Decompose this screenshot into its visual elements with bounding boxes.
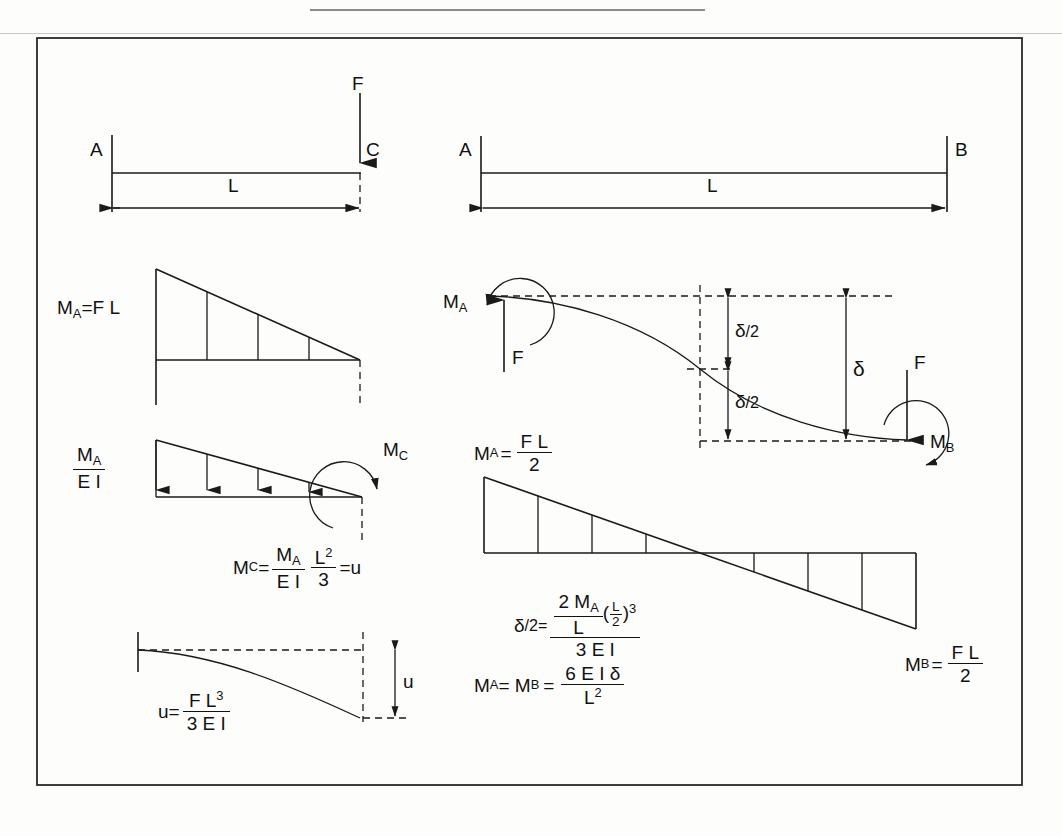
half-delta-outer-num: 2 MA L (L2)3 (550, 592, 640, 638)
ma-ei-num-sub: A (93, 453, 102, 468)
half-delta-paren-den: 2 (610, 615, 622, 629)
mc-frac2-num: L2 (311, 547, 337, 569)
half-delta-paren-pow: 3 (629, 601, 636, 616)
mb-half-lhs: M (905, 655, 921, 674)
half-delta-inner-coef: 2 M (558, 591, 590, 612)
half-delta-outer-den: 3 E I (550, 638, 640, 659)
ma-half-den: 2 (517, 453, 552, 474)
formula-ma-half: MA = F L 2 (474, 432, 555, 474)
formula-mc: MC= MA E I L2 3 =u (233, 545, 361, 591)
label-curvature-ma-ei: MA E I (70, 445, 108, 491)
mb-half-sub: B (921, 658, 930, 671)
label-point-b: B (955, 140, 968, 159)
half-delta-lower-symbol: δ (735, 391, 746, 412)
mc-formula-frac2: L2 3 (311, 547, 337, 590)
ma-half-eq: = (500, 444, 511, 463)
ff-ma-base: M (443, 291, 459, 312)
mb-half-eq: = (931, 655, 942, 674)
result-eq2: = (543, 676, 554, 695)
ff-ma-subscript: A (459, 300, 468, 315)
mc-formula-eq: = (258, 558, 269, 577)
ma-ei-numerator: MA (73, 445, 105, 470)
label-moment-mc: MC (383, 440, 408, 463)
half-delta-upper-den: /2 (746, 322, 759, 340)
label-half-delta-upper: δ/2 (735, 321, 759, 340)
half-delta-inner-den: L (554, 617, 602, 637)
mc-subscript: C (399, 448, 408, 463)
u-formula-num: F L3 (183, 690, 230, 712)
label-force-f-b: F (914, 353, 926, 372)
mc-formula-lhs: M (233, 558, 249, 577)
half-delta-outer-fraction: 2 MA L (L2)3 3 E I (550, 592, 640, 659)
ma-rest: =F L (81, 297, 120, 318)
half-delta-lower-den: /2 (746, 393, 759, 411)
result-den: L2 (561, 685, 624, 707)
half-delta-inner-sub: A (590, 600, 599, 615)
half-delta-formula-symbol: δ (514, 616, 525, 635)
label-point-c: C (366, 140, 380, 159)
mc-formula-lhs-sub: C (249, 561, 258, 574)
label-moment-mb-curve: MB (930, 432, 954, 455)
u-formula-fraction: F L3 3 E I (183, 690, 230, 733)
formula-mb-half: MB = F L 2 (905, 643, 986, 685)
label-force-f-a: F (512, 348, 524, 367)
mb-half-num: F L (948, 643, 983, 664)
mc-base: M (383, 439, 399, 460)
mb-half-fraction: F L 2 (948, 643, 983, 685)
figure-page: A C F L MA=F L MA E I MC MC= MA E I L2 3… (0, 0, 1062, 836)
label-delta-total: δ (853, 358, 865, 379)
mc-frac1-num-m: M (276, 544, 292, 565)
label-span-l-left: L (228, 176, 239, 195)
formula-u: u= F L3 3 E I (158, 690, 233, 733)
ma-half-num: F L (517, 432, 552, 453)
formula-half-delta: δ/2= 2 MA L (L2)3 3 E I (514, 592, 643, 659)
half-delta-inner-fraction: 2 MA L (554, 592, 602, 637)
result-eq1: = M (498, 676, 530, 695)
ma-base: M (57, 297, 73, 318)
ma-half-fraction: F L 2 (517, 432, 552, 474)
result-fraction: 6 E I δ L2 (561, 664, 624, 707)
label-point-a-left: A (90, 140, 103, 159)
half-delta-formula-rest: /2= (525, 617, 548, 633)
label-deflection-u: u (403, 672, 414, 691)
mc-frac2-num-sup: 2 (325, 545, 332, 560)
label-point-a-right: A (459, 140, 472, 159)
ma-half-lhs: M (474, 444, 490, 463)
u-formula-lhs: u= (158, 702, 180, 721)
label-moment-ma-right: MA (443, 292, 467, 315)
result-lhs-sub: A (490, 679, 499, 692)
mc-frac1-den: E I (272, 570, 304, 591)
result-lhs: M (474, 676, 490, 695)
label-span-l-right: L (707, 176, 718, 195)
result-den-l: L (584, 687, 595, 708)
label-moment-ma-fl: MA=F L (57, 298, 120, 321)
half-delta-paren-num: L (610, 600, 622, 615)
curvature-hypotenuse (156, 440, 362, 497)
u-formula-num-fl: F L (189, 690, 216, 711)
mc-formula-frac1: MA E I (272, 545, 304, 591)
u-formula-den: 3 E I (183, 712, 230, 733)
moment-mc-curved-arrow (310, 462, 377, 528)
ma-ei-num-m: M (77, 444, 93, 465)
mc-frac2-den: 3 (311, 568, 337, 589)
ma-ei-fraction: MA E I (73, 445, 105, 491)
mc-frac1-num: MA (272, 545, 304, 570)
result-mid-sub: B (531, 679, 540, 692)
ma-half-sub: A (490, 447, 499, 460)
ff-deflected-shape-curve (489, 296, 907, 440)
formula-ma-mb-result: MA = MB = 6 E I δ L2 (474, 664, 627, 707)
half-delta-inner-num: 2 MA (554, 592, 602, 617)
ff-mb-subscript: B (946, 440, 955, 455)
mb-half-den: 2 (948, 664, 983, 685)
mc-frac2-num-l: L (315, 546, 326, 567)
label-force-f-cantilever: F (352, 74, 364, 93)
result-num: 6 E I δ (561, 664, 624, 685)
half-delta-paren-fraction: L2 (610, 600, 622, 628)
ma-ei-denominator: E I (73, 470, 105, 491)
ff-mb-base: M (930, 431, 946, 452)
ff-moment-a-curved-arrow (487, 278, 554, 345)
half-delta-paren-group: (L2)3 (603, 600, 636, 628)
u-formula-num-sup: 3 (216, 688, 223, 703)
mc-frac1-num-sub: A (292, 553, 301, 568)
half-delta-upper-symbol: δ (735, 320, 746, 341)
